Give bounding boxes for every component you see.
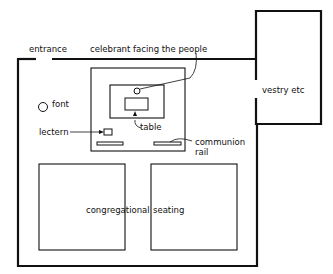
font-label: font (52, 99, 70, 109)
seating-label-left: congregational (86, 205, 150, 215)
communion-rail-label-2: rail (195, 147, 208, 157)
vestry-label: vestry etc (262, 85, 305, 95)
communion-rail-right (154, 142, 181, 145)
church-plan-diagram: entrance celebrant facing the people ves… (0, 0, 333, 274)
seating-label-right: seating (153, 205, 184, 215)
celebrant-label: celebrant facing the people (90, 44, 207, 54)
table-label: table (140, 122, 162, 132)
vestry-room (256, 10, 322, 125)
table-icon (125, 98, 148, 110)
altar-platform (110, 85, 164, 118)
lectern-label: lectern (39, 127, 69, 137)
font-icon (39, 103, 48, 112)
communion-rail-left (97, 142, 123, 145)
communion-rail-label-1: communion (195, 137, 245, 147)
lectern-icon (104, 129, 112, 135)
entrance-label: entrance (29, 44, 67, 54)
nave-outer-walls (17, 58, 258, 267)
celebrant-icon (134, 88, 140, 94)
